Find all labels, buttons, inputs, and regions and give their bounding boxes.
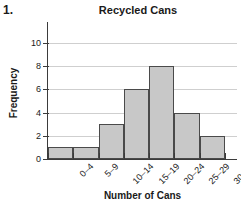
x-axis-spine: [47, 159, 237, 160]
y-tick-label: 6: [27, 85, 41, 94]
gridline: [48, 43, 237, 44]
y-tick-mark: [43, 136, 49, 137]
bar: [124, 89, 149, 159]
plot-area: [48, 22, 237, 159]
x-tick-label: 5–9: [103, 162, 120, 179]
y-tick-label-group: 4: [22, 109, 41, 118]
bar: [48, 147, 73, 159]
bar: [99, 124, 124, 159]
bar: [73, 147, 98, 159]
problem-number: 1.: [3, 4, 13, 16]
x-tick-label: 20–24: [182, 162, 206, 186]
x-tick-label: 0–4: [78, 162, 95, 179]
y-tick-mark: [43, 113, 49, 114]
y-tick-label: 10: [27, 39, 41, 48]
y-tick-mark: [43, 89, 49, 90]
x-tick-label: 10–14: [132, 162, 156, 186]
chart-title: Recycled Cans: [48, 4, 228, 16]
x-tick-mark: [149, 153, 150, 160]
y-tick-label: 4: [27, 109, 41, 118]
bar: [174, 113, 199, 159]
gridline: [48, 66, 237, 67]
y-tick-label-group: 2: [22, 132, 41, 141]
y-tick-label-group: 0: [22, 155, 41, 164]
y-tick-mark: [43, 66, 49, 67]
y-tick-label-group: 8: [22, 62, 41, 71]
y-tick-mark: [43, 43, 49, 44]
x-tick-label: 25–29: [207, 162, 231, 186]
x-tick-mark: [225, 153, 226, 160]
x-tick-label: 15–19: [157, 162, 181, 186]
y-tick-label: 2: [27, 132, 41, 141]
x-tick-mark: [73, 153, 74, 160]
x-tick-mark: [174, 153, 175, 160]
x-axis-title: Number of Cans: [48, 191, 237, 201]
y-tick-label: 0: [27, 155, 41, 164]
y-tick-label-group: 6: [22, 85, 41, 94]
x-tick-mark: [99, 153, 100, 160]
y-tick-label-group: 10: [22, 39, 41, 48]
bar: [149, 66, 174, 159]
x-tick-label: 30–34: [233, 162, 241, 186]
y-axis-title: Frequency: [9, 58, 19, 128]
x-tick-mark: [48, 153, 49, 160]
y-tick-label: 8: [27, 62, 41, 71]
x-tick-mark: [124, 153, 125, 160]
bar: [200, 136, 225, 159]
x-tick-mark: [200, 153, 201, 160]
